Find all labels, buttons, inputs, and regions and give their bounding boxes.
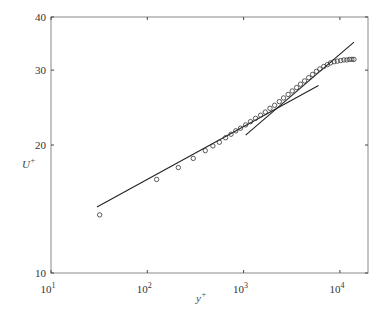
data-point [310,72,314,76]
data-point [263,110,267,114]
data-point [307,75,311,79]
y-tick-label: 10 [35,267,47,279]
x-tick-label: 101 [41,281,56,295]
data-point [298,82,302,86]
data-point [302,79,306,83]
x-tick-label: 104 [329,281,344,295]
data-point [176,165,180,169]
x-tick-label: 103 [233,281,248,295]
y-tick-label: 40 [35,11,47,23]
data-point [191,156,195,160]
y-tick-label: 20 [35,139,47,151]
data-point [211,144,215,148]
data-point [277,99,281,103]
data-point [97,213,101,217]
data-point [203,148,207,152]
chart: 101102103104 10203040 U+ y+ [0,0,381,318]
data-point [286,92,290,96]
data-point [154,177,158,181]
fit-lines [97,42,354,207]
data-point [217,140,221,144]
data-point [281,96,285,100]
fit-line [97,86,319,207]
data-point [294,85,298,89]
y-axis-label: U+ [22,156,35,170]
fit-line [246,42,354,135]
data-markers [97,57,356,217]
x-axis-label: y+ [195,290,206,304]
y-tick-label: 30 [35,64,47,76]
y-axis-ticks: 10203040 [35,11,368,279]
data-point [290,89,294,93]
data-point [272,103,276,107]
data-point [268,106,272,110]
x-tick-label: 102 [137,281,152,295]
